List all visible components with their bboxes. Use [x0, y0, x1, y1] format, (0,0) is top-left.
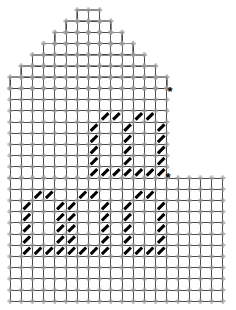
- chart-canvas: **: [0, 0, 236, 310]
- knitting-chart: **: [0, 0, 236, 310]
